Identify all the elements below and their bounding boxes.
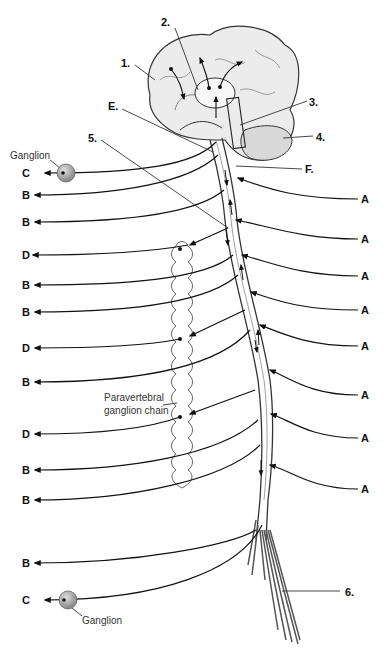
left-label-B5: B	[22, 377, 30, 388]
label-2: 2.	[161, 17, 170, 28]
left-label-D1: D	[22, 250, 30, 261]
right-label-A6: A	[361, 390, 369, 401]
label-3: 3.	[309, 97, 318, 108]
label-F: F.	[305, 164, 314, 175]
left-label-B1: B	[22, 190, 30, 201]
label-4: 4.	[316, 132, 325, 143]
left-label-D2: D	[22, 343, 30, 354]
left-label-B8: B	[22, 558, 30, 569]
right-label-A1: A	[361, 194, 369, 205]
left-label-B6: B	[22, 465, 30, 476]
right-label-A4: A	[361, 305, 369, 316]
ganglion-top-label: Ganglion	[10, 150, 50, 162]
ganglion-bottom-label: Ganglion	[82, 615, 122, 627]
left-label-C2: C	[22, 595, 30, 606]
left-label-B3: B	[22, 280, 30, 291]
right-label-A7: A	[361, 433, 369, 444]
label-6: 6.	[345, 587, 354, 598]
left-label-D3: D	[22, 429, 30, 440]
paravertebral-label-line2: ganglion chain	[104, 405, 169, 417]
ganglion-bottom	[59, 591, 77, 609]
paravertebral-label-line1: Paravertebral	[104, 392, 164, 404]
label-5: 5.	[88, 133, 97, 144]
right-label-A2: A	[361, 234, 369, 245]
diagram-canvas	[0, 0, 388, 656]
left-label-B4: B	[22, 307, 30, 318]
brain-illustration	[148, 26, 299, 160]
left-label-C1: C	[22, 168, 30, 179]
right-label-A3: A	[361, 271, 369, 282]
right-label-A8: A	[361, 484, 369, 495]
left-label-B2: B	[22, 217, 30, 228]
label-E: E.	[108, 101, 118, 112]
right-label-A5: A	[361, 341, 369, 352]
left-label-B7: B	[22, 495, 30, 506]
left-efferent-pathways	[33, 142, 262, 600]
label-1: 1.	[121, 58, 130, 69]
spinal-cord	[210, 138, 300, 644]
ganglion-top	[57, 164, 75, 182]
